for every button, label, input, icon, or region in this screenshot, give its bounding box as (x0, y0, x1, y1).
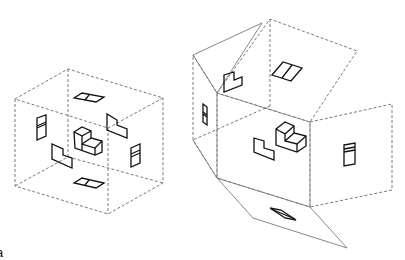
net-back-panel-edge (193, 23, 262, 93)
net-l-block-object (276, 122, 306, 152)
net-bottom-view-projection (270, 208, 296, 220)
left-glass-box (15, 69, 163, 214)
box-back-bottom-edge (68, 157, 163, 183)
net-right-panel (310, 104, 392, 207)
right-side-view-projection (131, 144, 140, 167)
net-top-view-projection (272, 62, 302, 81)
net-front-view-projection (254, 138, 274, 160)
net-left-side-view-projection (203, 104, 207, 125)
diagram-canvas (0, 0, 405, 260)
right-unfolded-net (193, 19, 392, 248)
top-view-projection (74, 93, 104, 102)
net-left-fold (193, 140, 217, 178)
left-side-view-projection (37, 115, 46, 140)
bottom-view-projection (74, 178, 104, 188)
net-back-view-projection (224, 72, 242, 92)
box-back-edge (15, 69, 68, 186)
box-outline (15, 98, 163, 214)
l-block-object (74, 127, 102, 155)
net-front-panel (217, 93, 310, 207)
net-right-side-view-projection (344, 143, 355, 166)
panel-label-fragment: a (0, 246, 3, 260)
back-view-projection (107, 114, 127, 138)
